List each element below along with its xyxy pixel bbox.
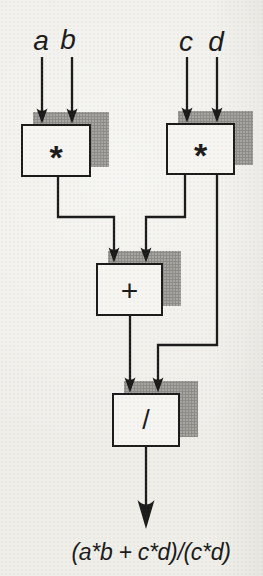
arrowhead-input-a xyxy=(37,109,48,124)
divide-operator-symbol: / xyxy=(142,407,150,434)
add-operator-symbol: + xyxy=(121,276,139,306)
arrowhead-add-to-div xyxy=(125,378,136,393)
multiply-operator-symbol-right: * xyxy=(194,138,207,172)
op-box-add: + xyxy=(96,263,163,316)
input-label-d: d xyxy=(208,28,224,56)
result-formula: (a*b + c*d)/(c*d) xyxy=(71,539,230,566)
arrowhead-mul-left-to-add xyxy=(109,248,120,263)
arrowhead-mul-right-to-div xyxy=(153,378,164,393)
op-box-multiply-left: * xyxy=(21,124,91,177)
arrowhead-input-c xyxy=(182,108,193,123)
input-label-b: b xyxy=(60,26,76,54)
wire-mul-right-to-div xyxy=(158,175,217,381)
op-box-multiply-right: * xyxy=(166,123,235,175)
input-label-c: c xyxy=(179,28,193,56)
wire-mul-left-to-add xyxy=(58,177,114,251)
arrowhead-mul-right-to-add xyxy=(141,248,152,263)
op-box-divide: / xyxy=(112,393,180,447)
input-label-a: a xyxy=(33,27,49,55)
wire-mul-right-to-add xyxy=(146,175,185,251)
dataflow-figure: a b c d * * + / (a*b + c*d)/(c*d) xyxy=(0,0,263,576)
multiply-operator-symbol-left: * xyxy=(49,140,62,174)
arrowhead-input-d xyxy=(212,108,223,123)
arrowhead-input-b xyxy=(67,109,78,124)
